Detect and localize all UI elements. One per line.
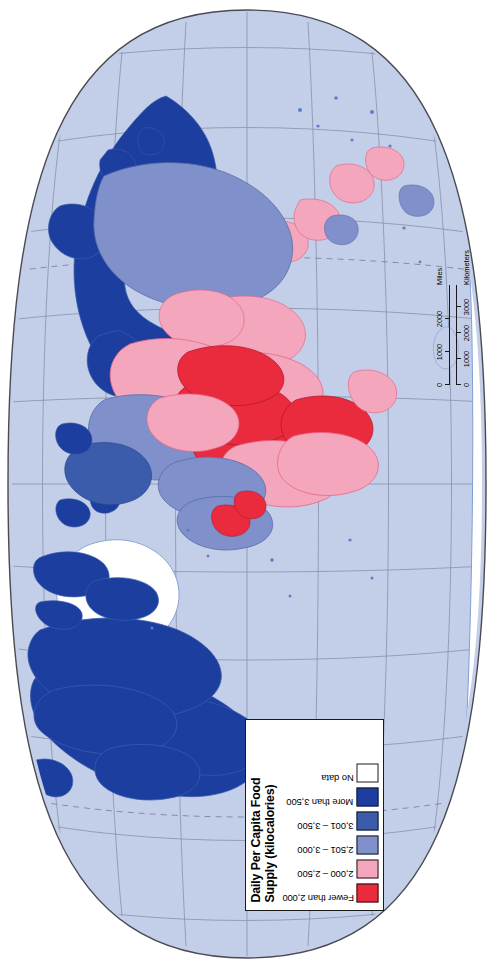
scale-tick-miles-0: 0 [435,383,444,387]
map-legend: Daily Per Capita Food Supply (kilocalori… [245,719,384,911]
legend-item-label: 2,501 – 3,000 [297,844,353,854]
scale-tick-km-1: 1000 [462,351,471,367]
scale-axis-miles [449,285,450,385]
legend-item: 2,000 – 2,500 [297,858,378,878]
legend-item-label: Fewer than 2,000 [282,892,353,902]
legend-title: Daily Per Capita Food Supply (kilocalori… [249,727,276,902]
scale-tick-km-2: 2000 [462,325,471,341]
legend-item-label: 2,000 – 2,500 [297,868,353,878]
legend-title-line-1: Daily Per Capita Food [249,727,263,902]
scale-axis-kilometers [456,285,457,385]
scale-tick-km-0: 0 [462,383,471,387]
legend-item-label: No data [321,772,353,782]
legend-color-swatch [356,835,378,854]
legend-color-swatch [356,763,378,782]
legend-item-label: More than 3,500 [286,796,353,806]
scale-unit-kilometers: Kilometers [462,250,471,285]
legend-color-swatch [356,811,378,830]
scale-tick-miles-1: 1000 [435,344,444,360]
scale-tick-km-3: 3000 [462,299,471,315]
legend-items: Fewer than 2,0002,000 – 2,5002,501 – 3,0… [282,727,378,902]
scale-bar-miles: 0 1000 2000 Miles [426,275,450,391]
legend-title-line-2: Supply (kilocalories) [263,727,277,902]
legend-item: More than 3,500 [286,786,378,806]
legend-item: No data [321,762,378,782]
world-map-page: 0 1000 2000 Miles 0 1000 2000 3000 Kilom… [0,0,494,969]
scale-tick-miles-2: 2000 [435,311,444,327]
legend-color-swatch [356,859,378,878]
legend-item: 3,001 – 3,500 [297,810,378,830]
map-scale-bar: 0 1000 2000 Miles 0 1000 2000 3000 Kilom… [424,275,486,391]
legend-color-swatch [356,787,378,806]
legend-item: 2,501 – 3,000 [297,834,378,854]
legend-item: Fewer than 2,000 [282,882,378,902]
scale-bar-kilometers: 0 1000 2000 3000 Kilometers [456,275,480,391]
legend-color-swatch [356,883,378,902]
legend-item-label: 3,001 – 3,500 [297,820,353,830]
scale-unit-miles: Miles [435,268,444,285]
